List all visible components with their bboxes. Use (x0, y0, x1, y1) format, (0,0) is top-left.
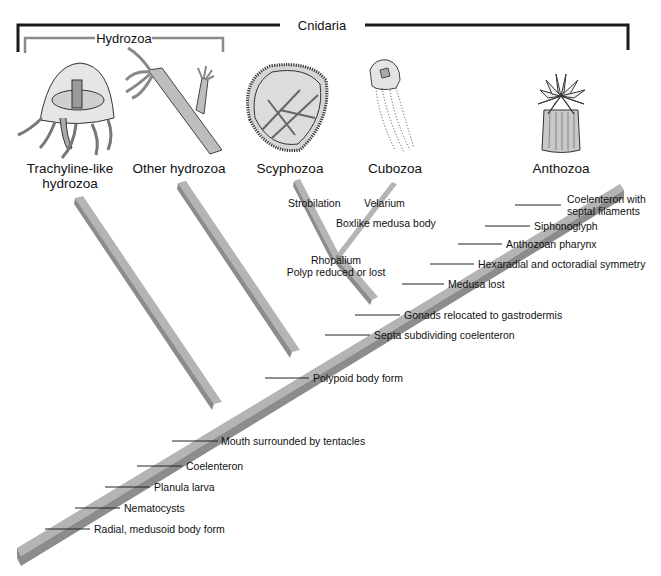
taxon-label-scyphozoa: Scyphozoa (257, 161, 324, 176)
trait-radial-medusoid: Radial, medusoid body form (94, 523, 225, 535)
cubozoa-box-jelly-illustration (370, 60, 414, 152)
scyphozoa-medusa-illustration (248, 65, 327, 151)
trait-anthozoan-pharynx: Anthozoan pharynx (506, 238, 597, 250)
trait-medusa-lost: Medusa lost (448, 278, 505, 290)
trait-planula-larva: Planula larva (154, 481, 215, 493)
trait-coelenteron: Coelenteron (186, 460, 243, 472)
taxon-label-cubozoa: Cubozoa (368, 161, 423, 176)
trait-coelenteron-septal-line1: Coelenteron with (567, 193, 646, 205)
cnidaria-label: Cnidaria (298, 18, 347, 33)
trait-nematocysts: Nematocysts (124, 502, 185, 514)
hydrozoa-bracket: Hydrozoa (25, 31, 223, 53)
trait-boxlike-medusa: Boxlike medusa body (336, 217, 437, 229)
trait-mouth-tentacles: Mouth surrounded by tentacles (221, 435, 365, 447)
trait-strobilation: Strobilation (288, 197, 341, 209)
trait-siphonoglyph: Siphonoglyph (534, 220, 598, 232)
trait-rhopalium: Rhopalium (311, 254, 361, 266)
trait-polyp-reduced: Polyp reduced or lost (287, 266, 386, 278)
hydrozoa-label: Hydrozoa (96, 31, 152, 46)
trait-septa: Septa subdividing coelenteron (374, 329, 515, 341)
taxon-label-other-hydrozoa: Other hydrozoa (132, 161, 226, 176)
cnidaria-cladogram: Cnidaria Hydrozoa (0, 0, 661, 576)
taxon-label-anthozoa: Anthozoa (532, 161, 590, 176)
taxon-label-trachyline: Trachyline-like (27, 161, 114, 176)
hydra-polyp-illustration (126, 48, 222, 154)
trait-velarium: Velarium (364, 197, 405, 209)
trachyline-medusa-illustration (18, 63, 114, 158)
sea-anemone-illustration (538, 74, 585, 153)
trait-polypoid-body: Polypoid body form (313, 372, 403, 384)
trait-coelenteron-septal-line2: septal filaments (567, 205, 640, 217)
taxon-label-trachyline-line2: hydrozoa (42, 176, 98, 191)
trait-gonads-relocated: Gonads relocated to gastrodermis (404, 309, 562, 321)
trait-hexaradial-octoradial: Hexaradial and octoradial symmetry (478, 258, 646, 270)
